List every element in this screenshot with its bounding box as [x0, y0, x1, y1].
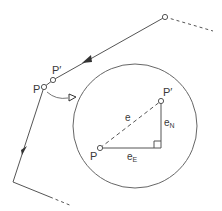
easting-label-sub: E — [133, 156, 138, 163]
misclosure-triangle — [100, 101, 161, 148]
station-marker-p-prime — [50, 77, 55, 82]
right-angle-marker — [154, 141, 161, 148]
traverse-misclosure-diagram: P′ P P P′ e eN eE — [0, 0, 222, 211]
misclosure-line — [100, 101, 161, 148]
inset-marker-p — [97, 145, 102, 150]
traverse-leg-top — [53, 17, 165, 80]
misclosure-label: e — [125, 112, 131, 123]
station-marker-p — [41, 84, 46, 89]
inset-circle — [73, 64, 197, 188]
traverse-path — [13, 17, 213, 206]
hollow-arrow-icon — [69, 94, 76, 101]
inset-label-p: P — [90, 150, 97, 162]
magnify-connector — [47, 92, 68, 98]
inset-label-p-prime: P′ — [163, 86, 172, 98]
direction-arrow-icon — [82, 55, 92, 63]
easting-label: eE — [127, 151, 138, 163]
traverse-leg-bottom — [13, 182, 50, 197]
northing-label: eN — [164, 117, 175, 129]
traverse-leg-left — [13, 87, 44, 182]
traverse-dashed-extension-bottom — [50, 197, 72, 206]
label-p: P — [33, 83, 40, 95]
label-p-prime: P′ — [52, 64, 61, 76]
inset-marker-p-prime — [158, 98, 163, 103]
northing-label-sub: N — [170, 122, 175, 129]
traverse-dashed-extension-top — [165, 17, 213, 31]
station-marker-top — [162, 14, 167, 19]
